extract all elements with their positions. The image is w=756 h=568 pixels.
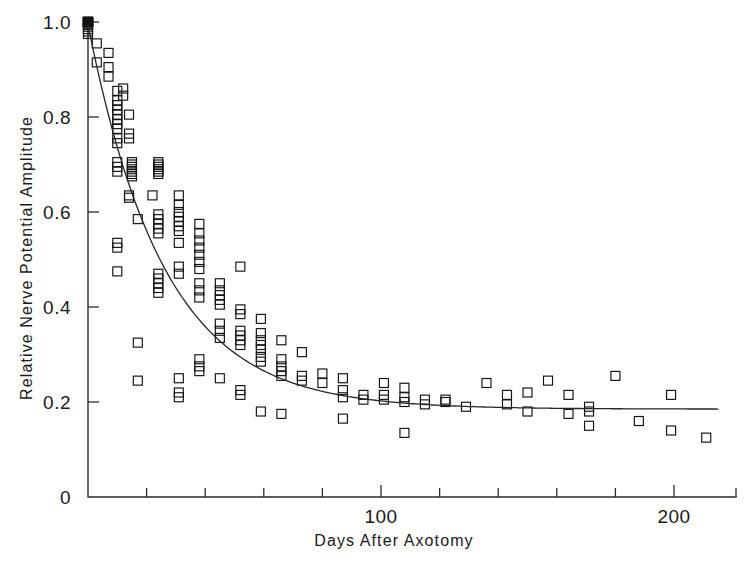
y-axis-title: Relative Nerve Potential Amplitude: [18, 116, 35, 400]
data-point: [215, 374, 224, 383]
data-point: [338, 414, 347, 423]
data-point: [236, 262, 245, 271]
data-point: [318, 369, 327, 378]
data-point: [667, 390, 676, 399]
data-point: [297, 348, 306, 357]
data-point: [318, 379, 327, 388]
data-point: [667, 426, 676, 435]
x-tick-label: 100: [364, 506, 397, 527]
y-tick-label: 0.4: [43, 297, 71, 318]
data-point: [113, 267, 122, 276]
data-point: [482, 379, 491, 388]
data-point: [611, 371, 620, 380]
data-point: [195, 219, 204, 228]
data-point: [104, 72, 113, 81]
data-point: [148, 191, 157, 200]
data-point: [133, 376, 142, 385]
data-point: [338, 374, 347, 383]
data-point: [133, 338, 142, 347]
data-point: [441, 395, 450, 404]
figure-container: 100200 00.20.40.60.81.0 Days After Axoto…: [0, 0, 756, 568]
y-tick-label: 0.2: [43, 392, 71, 413]
data-point: [174, 238, 183, 247]
data-point: [174, 374, 183, 383]
data-point: [523, 388, 532, 397]
data-point: [702, 433, 711, 442]
data-point: [585, 421, 594, 430]
data-point: [400, 383, 409, 392]
data-point: [634, 417, 643, 426]
data-point: [92, 39, 101, 48]
data-point: [400, 428, 409, 437]
y-tick-label: 1.0: [43, 12, 71, 33]
data-point: [104, 63, 113, 72]
x-tick-label: 200: [657, 506, 690, 527]
data-point: [564, 390, 573, 399]
x-axis-title: Days After Axotomy: [314, 532, 473, 549]
y-axis-tick-labels: 00.20.40.60.81.0: [43, 12, 71, 508]
data-point: [379, 379, 388, 388]
data-point-markers: [84, 18, 711, 443]
data-point: [544, 376, 553, 385]
y-tick-label: 0.6: [43, 202, 71, 223]
data-point: [104, 48, 113, 57]
data-point: [277, 336, 286, 345]
data-point: [125, 110, 134, 119]
scatter-plot: 100200 00.20.40.60.81.0 Days After Axoto…: [0, 0, 756, 568]
y-axis-ticks: [88, 22, 99, 402]
data-point: [256, 407, 265, 416]
x-axis-ticks: [147, 485, 736, 497]
data-point: [277, 409, 286, 418]
data-point: [564, 409, 573, 418]
x-axis-tick-labels: 100200: [364, 506, 690, 527]
y-tick-label: 0: [60, 487, 71, 508]
data-point: [174, 191, 183, 200]
data-point: [256, 314, 265, 323]
data-point: [502, 390, 511, 399]
y-tick-label: 0.8: [43, 107, 71, 128]
